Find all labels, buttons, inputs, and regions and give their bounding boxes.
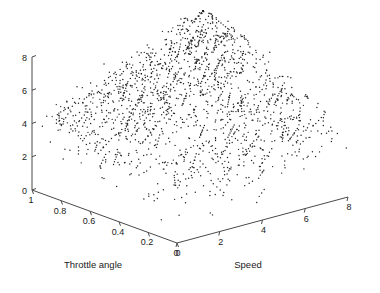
data-point [232, 38, 233, 39]
data-point [101, 109, 102, 110]
data-point [223, 33, 224, 34]
data-point [292, 119, 293, 120]
z-tick-label: 8 [22, 53, 27, 63]
data-point [129, 63, 130, 64]
data-point [213, 47, 214, 48]
data-point [247, 44, 248, 45]
data-point [247, 62, 248, 63]
data-point [228, 134, 229, 135]
data-point [59, 129, 60, 130]
data-point [255, 62, 256, 63]
data-point [124, 162, 125, 163]
data-point [287, 117, 288, 118]
data-point [221, 151, 222, 152]
data-point [216, 22, 217, 23]
data-point [245, 118, 246, 119]
data-point [184, 74, 185, 75]
data-point [161, 49, 162, 50]
data-point [72, 106, 73, 107]
data-point [308, 123, 309, 124]
data-point [297, 135, 298, 136]
data-point [161, 128, 162, 129]
data-point [240, 143, 241, 144]
data-point [257, 120, 258, 121]
data-point [103, 84, 104, 85]
data-point [173, 159, 174, 160]
data-point [193, 109, 194, 110]
data-point [215, 119, 216, 120]
data-point [254, 113, 255, 114]
data-point [203, 24, 204, 25]
data-point [241, 67, 242, 68]
data-point [211, 16, 212, 17]
data-point [131, 86, 132, 87]
data-point [273, 84, 274, 85]
data-point [262, 162, 263, 163]
data-point [143, 109, 144, 110]
data-point [191, 42, 192, 43]
data-point [127, 124, 128, 125]
data-point [247, 93, 248, 94]
data-point [299, 107, 300, 108]
data-point [211, 86, 212, 87]
data-point [105, 100, 106, 101]
data-point [131, 85, 132, 86]
data-point [90, 101, 91, 102]
data-point [312, 125, 313, 126]
data-point [149, 56, 150, 57]
data-point [244, 94, 245, 95]
data-point [323, 117, 324, 118]
data-point [102, 160, 103, 161]
data-point [220, 189, 221, 190]
data-point [182, 103, 183, 104]
data-point [144, 127, 145, 128]
data-point [279, 91, 280, 92]
data-point [108, 83, 109, 84]
data-point [289, 116, 290, 117]
data-point [133, 112, 134, 113]
data-point [70, 111, 71, 112]
data-point [119, 164, 120, 165]
data-point [189, 43, 190, 44]
data-point [231, 75, 232, 76]
data-point [119, 80, 120, 81]
data-point [280, 113, 281, 114]
data-point [248, 42, 249, 43]
data-point [122, 87, 123, 88]
data-point [205, 167, 206, 168]
data-point [122, 62, 123, 63]
data-point [158, 191, 159, 192]
data-point [150, 154, 151, 155]
data-point [120, 92, 121, 93]
data-point [146, 170, 147, 171]
data-point [269, 75, 270, 76]
data-point [136, 51, 137, 52]
data-point [151, 69, 152, 70]
data-point [66, 101, 67, 102]
data-point [244, 123, 245, 124]
data-point [251, 113, 252, 114]
data-point [203, 185, 204, 186]
figure-3d-scatter-plot: 0246810.80.60.40.2002468Throttle angleSp… [0, 0, 380, 293]
data-point [223, 192, 224, 193]
data-point [176, 74, 177, 75]
data-point [119, 88, 120, 89]
data-point [235, 76, 236, 77]
data-point [174, 171, 175, 172]
data-point [223, 84, 224, 85]
data-point [290, 118, 291, 119]
data-point [200, 83, 201, 84]
data-point [178, 62, 179, 63]
data-point [199, 31, 200, 32]
data-point [146, 154, 147, 155]
data-point [277, 87, 278, 88]
data-point [224, 61, 225, 62]
data-point [245, 149, 246, 150]
data-point [200, 175, 201, 176]
data-point [280, 107, 281, 108]
data-point [307, 156, 308, 157]
data-point [119, 152, 120, 153]
data-point [143, 124, 144, 125]
data-point [176, 125, 177, 126]
data-point [259, 120, 260, 121]
